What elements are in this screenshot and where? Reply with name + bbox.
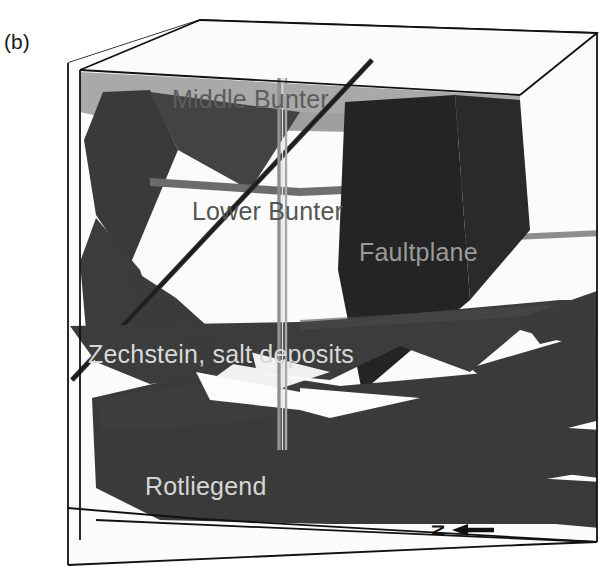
label-middle-bunter: Middle Bunter [172,85,329,114]
label-lower-bunter: Lower Bunter [192,197,343,226]
block-interior [60,15,605,575]
label-rotliegend: Rotliegend [145,472,267,501]
label-zechstein: Zechstein, salt deposits [88,340,354,369]
north-arrow-letter: N [430,524,447,536]
figure-root: N (b) Middle Bunter Lower Bunter Faultpl… [0,0,612,578]
panel-label: (b) [4,30,30,54]
wellbore [279,78,286,450]
label-faultplane: Faultplane [359,238,478,267]
